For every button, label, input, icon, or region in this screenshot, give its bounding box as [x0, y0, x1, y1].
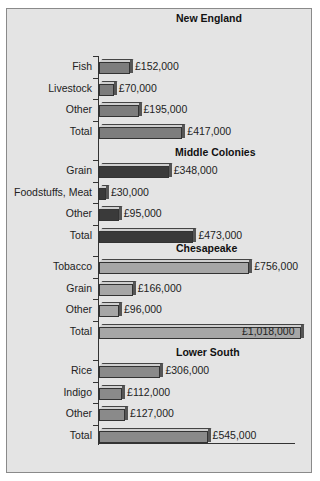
- category-label: Other: [66, 303, 92, 315]
- group-title: Lower South: [176, 346, 240, 358]
- bar: [99, 385, 125, 400]
- axis-tick: [93, 425, 98, 426]
- group-title: New England: [176, 12, 242, 24]
- value-label: £348,000: [174, 164, 218, 176]
- axis-tick: [93, 121, 98, 122]
- bar: [99, 124, 185, 139]
- bar: [99, 81, 117, 96]
- axis-tick: [93, 99, 98, 100]
- group-title: Middle Colonies: [175, 146, 256, 158]
- value-label: £545,000: [213, 429, 257, 441]
- axis-tick: [93, 321, 98, 322]
- axis-tick: [93, 360, 98, 361]
- bar: [99, 228, 196, 243]
- value-label: £166,000: [138, 282, 182, 294]
- bar: [99, 102, 142, 117]
- category-label: Rice: [71, 364, 92, 376]
- category-label: Foodstuffs, Meat: [14, 186, 92, 198]
- category-label: Fish: [72, 60, 92, 72]
- category-label: Tobacco: [53, 260, 92, 272]
- bar: [99, 363, 163, 378]
- axis-tick: [93, 382, 98, 383]
- axis-tick: [93, 203, 98, 204]
- axis-tick: [93, 256, 98, 257]
- value-label: £112,000: [127, 386, 170, 398]
- value-label: £30,000: [111, 186, 149, 198]
- value-label: £1,018,000: [242, 325, 295, 337]
- axis-tick: [93, 56, 98, 57]
- value-label: £96,000: [124, 303, 162, 315]
- value-label: £127,000: [130, 407, 174, 419]
- category-label: Grain: [66, 164, 92, 176]
- value-label: £417,000: [187, 125, 231, 137]
- bar: [99, 281, 136, 296]
- bar: [99, 428, 211, 443]
- bar: [99, 406, 128, 421]
- axis-tick: [93, 299, 98, 300]
- category-label: Grain: [66, 282, 92, 294]
- category-label: Total: [70, 429, 92, 441]
- category-label: Indigo: [63, 386, 92, 398]
- value-label: £306,000: [165, 364, 209, 376]
- bar: [99, 163, 172, 178]
- x-axis-line: [98, 443, 295, 444]
- value-label: £473,000: [198, 229, 242, 241]
- category-label: Other: [66, 207, 92, 219]
- bar: [99, 259, 252, 274]
- axis-tick: [93, 225, 98, 226]
- bar: [99, 206, 122, 221]
- axis-tick: [93, 278, 98, 279]
- bar: [99, 302, 122, 317]
- category-label: Livestock: [48, 82, 92, 94]
- axis-tick: [93, 182, 98, 183]
- category-label: Other: [66, 103, 92, 115]
- category-label: Total: [70, 325, 92, 337]
- bar: [99, 185, 109, 200]
- category-label: Other: [66, 407, 92, 419]
- axis-tick: [93, 403, 98, 404]
- value-label: £195,000: [144, 103, 188, 115]
- value-label: £95,000: [124, 207, 162, 219]
- value-label: £70,000: [119, 82, 157, 94]
- category-label: Total: [70, 229, 92, 241]
- value-label: £756,000: [254, 260, 298, 272]
- axis-tick: [93, 160, 98, 161]
- category-label: Total: [70, 125, 92, 137]
- axis-tick: [93, 78, 98, 79]
- group-title: Chesapeake: [176, 242, 237, 254]
- bar: [99, 59, 133, 74]
- value-label: £152,000: [135, 60, 179, 72]
